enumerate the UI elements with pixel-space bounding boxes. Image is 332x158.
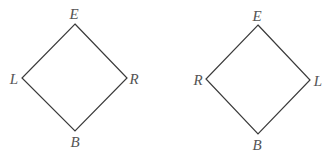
left-top-label: E — [69, 7, 78, 22]
left-right-label: R — [129, 72, 138, 87]
left-diamond — [22, 24, 127, 131]
diagram-canvas — [0, 0, 332, 158]
left-left-label: L — [10, 72, 18, 87]
right-diamond — [206, 25, 310, 134]
right-left-label: R — [193, 73, 202, 88]
right-bottom-label: B — [252, 138, 261, 153]
right-right-label: L — [314, 74, 322, 89]
left-bottom-label: B — [70, 135, 79, 150]
right-top-label: E — [252, 9, 261, 24]
